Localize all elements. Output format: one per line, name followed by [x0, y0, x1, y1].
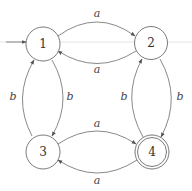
edge-label-3-4: a [94, 117, 101, 130]
state-label: 1 [39, 37, 47, 51]
edge-4-3 [58, 160, 137, 173]
edge-label-4-3: a [94, 174, 101, 187]
automaton-diagram: a a a a b b b b 1 2 3 4 [0, 0, 192, 191]
state-label: 4 [148, 145, 156, 159]
state-4-accepting: 4 [135, 135, 169, 169]
state-3: 3 [26, 135, 60, 169]
state-2: 2 [135, 27, 168, 60]
edge-label-3-1: b [9, 90, 16, 103]
edge-label-1-3: b [66, 90, 73, 103]
state-label: 3 [39, 145, 47, 159]
edge-3-4 [58, 131, 136, 144]
state-1: 1 [26, 27, 60, 61]
edge-3-1 [22, 60, 34, 136]
edge-1-2 [58, 22, 135, 36]
edge-label-2-4: b [176, 90, 183, 103]
edge-label-4-2: b [120, 90, 127, 103]
edge-label-1-2: a [94, 7, 101, 20]
edge-2-4 [160, 59, 171, 137]
edge-4-2 [132, 59, 143, 137]
edge-label-2-1: a [94, 63, 101, 76]
edge-1-3 [52, 60, 63, 136]
edge-2-1 [58, 51, 136, 64]
state-label: 2 [147, 36, 155, 50]
